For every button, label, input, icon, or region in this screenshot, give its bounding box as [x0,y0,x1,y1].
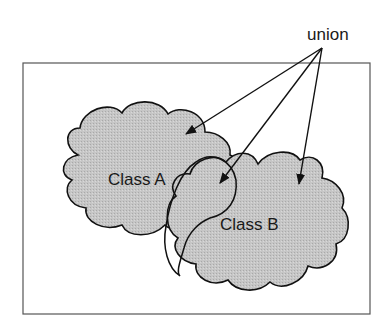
union-diagram: Class A Class B union [0,0,387,328]
union-label: union [307,25,349,44]
class-b-label: Class B [220,215,279,234]
arrow-to-class-a [186,48,322,134]
class-a-label: Class A [108,170,166,189]
